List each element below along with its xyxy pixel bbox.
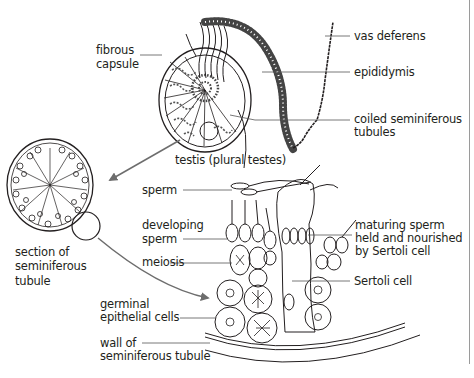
page-border	[469, 0, 470, 364]
label-section-line3: tubule	[15, 275, 50, 288]
label-wall-line2: seminiferous tubule	[100, 350, 210, 363]
vas-deferens-drawing	[293, 22, 333, 148]
label-developing-sperm-line1: developing	[142, 219, 204, 232]
label-section-line2: seminiferous	[15, 260, 86, 273]
testis-drawing	[159, 22, 251, 168]
label-fibrous-capsule-line2: capsule	[96, 58, 139, 71]
diagram-illustration	[0, 0, 474, 378]
label-testis: testis (plural testes)	[175, 154, 286, 167]
label-vas-deferens: vas deferens	[354, 30, 425, 43]
diagram-canvas: vas deferens epididymis fibrous capsule …	[0, 0, 474, 378]
arrow-testis-to-section	[110, 140, 180, 180]
label-meiosis: meiosis	[142, 256, 184, 269]
label-sertoli-cell: Sertoli cell	[354, 275, 412, 288]
label-fibrous-capsule-line1: fibrous	[96, 44, 134, 57]
label-maturing-sperm-line3: by Sertoli cell	[355, 245, 430, 258]
label-germinal-line2: epithelial cells	[100, 311, 179, 324]
label-sperm: sperm	[142, 184, 177, 197]
label-epididymis: epididymis	[354, 66, 415, 79]
tubule-wall-drawing	[205, 165, 420, 362]
tubule-section-drawing	[7, 139, 100, 240]
label-section-line1: section of	[15, 246, 69, 259]
label-coiled-tubules-line2: tubules	[354, 126, 395, 139]
label-developing-sperm-line2: sperm	[142, 233, 177, 246]
